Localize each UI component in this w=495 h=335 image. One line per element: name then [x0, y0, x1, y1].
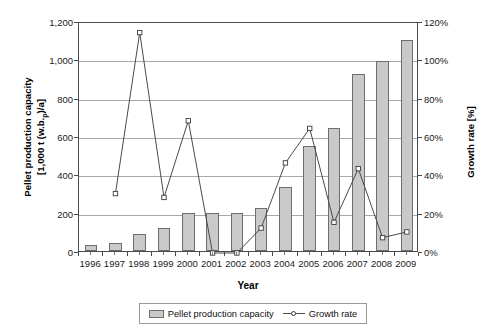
legend-bar-swatch-icon — [149, 310, 164, 318]
y-tick-mark-right — [418, 99, 422, 100]
x-tick — [175, 252, 176, 256]
legend-item-growth-rate: Growth rate — [283, 309, 358, 319]
x-tick — [297, 252, 298, 256]
x-tick-minor — [236, 252, 237, 255]
y-axis-subscript: p — [41, 113, 48, 117]
legend-item-pellet-production-capacity: Pellet production capacity — [149, 309, 274, 319]
x-tick — [272, 252, 273, 256]
x-tick-label-1999: 1999 — [152, 258, 173, 269]
x-tick-minor — [382, 252, 383, 255]
y-tick-right-100%: 100% — [424, 55, 468, 66]
growth-rate-marker-1997 — [113, 191, 117, 195]
x-tick-minor — [406, 252, 407, 255]
y-tick-right-60%: 60% — [424, 132, 468, 143]
x-tick-minor — [139, 252, 140, 255]
x-tick-label-2008: 2008 — [371, 258, 392, 269]
y-tick-mark-right — [418, 175, 422, 176]
x-tick — [199, 252, 200, 256]
x-tick-label-2003: 2003 — [250, 258, 271, 269]
y-tick-left-1,000: 1,000 — [27, 55, 73, 66]
y-tick-mark-right — [418, 22, 422, 23]
x-tick-label-2009: 2009 — [395, 258, 416, 269]
x-tick-label-1998: 1998 — [128, 258, 149, 269]
x-tick — [394, 252, 395, 256]
x-tick-minor — [333, 252, 334, 255]
x-tick-minor — [90, 252, 91, 255]
growth-rate-marker-1999 — [162, 195, 166, 199]
x-tick-label-2004: 2004 — [274, 258, 295, 269]
y-tick-mark-left — [74, 22, 78, 23]
x-tick — [102, 252, 103, 256]
y-tick-right-20%: 20% — [424, 208, 468, 219]
x-tick-label-2006: 2006 — [322, 258, 343, 269]
y-tick-mark-left — [74, 175, 78, 176]
growth-rate-marker-1998 — [138, 30, 142, 34]
legend-label-bar: Pellet production capacity — [168, 309, 274, 319]
line-series-growth-rate — [79, 23, 419, 253]
growth-rate-marker-2006 — [332, 220, 336, 224]
x-tick-minor — [114, 252, 115, 255]
growth-rate-marker-2008 — [380, 235, 384, 239]
x-tick — [369, 252, 370, 256]
x-tick-label-2007: 2007 — [347, 258, 368, 269]
y-tick-mark-left — [74, 60, 78, 61]
x-tick-label-2005: 2005 — [298, 258, 319, 269]
x-tick-label-2001: 2001 — [201, 258, 222, 269]
x-tick-label-2002: 2002 — [225, 258, 246, 269]
y-tick-mark-right — [418, 60, 422, 61]
x-tick — [151, 252, 152, 256]
x-tick-minor — [357, 252, 358, 255]
growth-rate-marker-2000 — [186, 119, 190, 123]
y-tick-mark-right — [418, 137, 422, 138]
x-tick-label-1997: 1997 — [104, 258, 125, 269]
y-tick-left-200: 200 — [27, 208, 73, 219]
x-tick-label-2000: 2000 — [177, 258, 198, 269]
x-tick-label-1996: 1996 — [80, 258, 101, 269]
growth-rate-marker-2009 — [405, 230, 409, 234]
x-tick-minor — [163, 252, 164, 255]
y-tick-mark-left — [74, 137, 78, 138]
x-tick-minor — [284, 252, 285, 255]
growth-rate-marker-2007 — [356, 166, 360, 170]
x-tick — [345, 252, 346, 256]
plot-area — [78, 22, 418, 252]
chart-figure: Pellet production capacity [1,000 t (w.b… — [0, 0, 495, 335]
growth-rate-marker-2004 — [283, 161, 287, 165]
y-tick-right-0%: 0% — [424, 247, 468, 258]
x-tick — [321, 252, 322, 256]
chart-legend: Pellet production capacity Growth rate — [139, 303, 367, 324]
x-tick-minor — [260, 252, 261, 255]
y-tick-left-0: 0 — [27, 247, 73, 258]
growth-rate-markers — [113, 30, 409, 255]
x-tick-minor — [212, 252, 213, 255]
y-tick-right-120%: 120% — [424, 17, 468, 28]
y-tick-right-40%: 40% — [424, 170, 468, 181]
y-tick-mark-left — [74, 214, 78, 215]
growth-rate-polyline — [115, 33, 406, 253]
growth-rate-marker-2003 — [259, 226, 263, 230]
x-tick — [78, 252, 79, 256]
x-tick-minor — [187, 252, 188, 255]
legend-label-line: Growth rate — [309, 309, 358, 319]
x-axis-title: Year — [78, 280, 418, 291]
x-tick — [248, 252, 249, 256]
y-tick-mark-left — [74, 99, 78, 100]
x-tick — [127, 252, 128, 256]
legend-line-swatch-icon — [283, 310, 305, 318]
y-tick-left-600: 600 — [27, 132, 73, 143]
x-tick-minor — [309, 252, 310, 255]
y-tick-left-800: 800 — [27, 93, 73, 104]
x-tick — [224, 252, 225, 256]
x-tick — [418, 252, 419, 256]
y-tick-left-1,200: 1,200 — [27, 17, 73, 28]
y-tick-left-400: 400 — [27, 170, 73, 181]
y-tick-mark-right — [418, 214, 422, 215]
growth-rate-marker-2005 — [308, 126, 312, 130]
y-tick-right-80%: 80% — [424, 93, 468, 104]
